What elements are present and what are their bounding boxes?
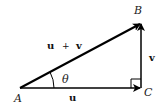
point-b-label: B: [133, 4, 142, 17]
theta-label: θ: [62, 73, 69, 86]
sum-v-label: v: [75, 40, 83, 51]
vector-v-label: v: [148, 52, 156, 63]
vector-u-plus-v-line: [20, 24, 140, 88]
right-angle-marker: [131, 79, 141, 88]
sum-plus-label: +: [62, 41, 70, 51]
point-a-label: A: [13, 92, 22, 105]
point-c-label: C: [144, 86, 153, 99]
sum-u-label: u: [47, 40, 54, 51]
vector-diagram: A B C u v u + v θ: [0, 0, 163, 110]
vector-u-label: u: [69, 92, 76, 103]
angle-arc: [50, 72, 54, 88]
